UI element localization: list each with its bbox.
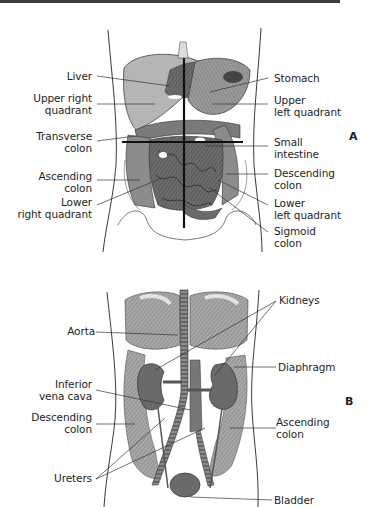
label-inferior-vena-cava: Inferior vena cava [39,378,92,402]
figure-b-retroperitoneal-organs: Aorta Inferior vena cava Descending colo… [0,260,375,507]
label-transverse-colon: Transverse colon [36,130,92,154]
label-descending-colon-a: Descending colon [274,167,335,191]
label-diaphragm: Diaphragm [278,361,336,373]
label-upper-left-quadrant: Upper left quadrant [274,94,341,118]
label-bladder: Bladder [274,494,314,506]
label-upper-right-quadrant: Upper right quadrant [33,92,92,116]
panel-letter-a: A [349,130,358,143]
label-aorta: Aorta [67,325,95,337]
label-lower-right-quadrant: Lower right quadrant [17,196,92,220]
label-kidneys: Kidneys [279,294,320,306]
label-liver: Liver [67,70,92,82]
panel-letter-b: B [345,395,353,408]
figure-a-abdominal-quadrants: Liver Upper right quadrant Transverse co… [0,0,375,260]
label-ascending-colon-b: Ascending colon [276,416,330,440]
label-small-intestine: Small intestine [274,136,319,160]
label-descending-colon-b: Descending colon [31,411,92,435]
label-ureters: Ureters [54,472,92,484]
label-stomach: Stomach [274,72,320,84]
label-ascending-colon-a: Ascending colon [38,170,92,194]
label-sigmoid-colon: Sigmoid colon [274,225,316,249]
label-lower-left-quadrant: Lower left quadrant [274,197,341,221]
